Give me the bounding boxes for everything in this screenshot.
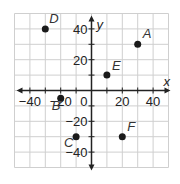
x-tick-label: 40 [146,94,160,109]
point-f-dot-icon [119,133,126,140]
x-tick-label: −40 [19,94,41,109]
point-e-label: E [112,58,121,73]
y-tick-label: 20 [73,53,87,68]
x-tick-label: 20 [115,94,129,109]
origin-label: 0 [80,94,87,109]
point-a-dot-icon [134,41,141,48]
point-c-label: C [64,135,74,150]
point-d-label: D [49,11,58,26]
point-f-label: F [127,119,136,134]
point-c-dot-icon [73,133,80,140]
y-tick-label: 40 [73,22,87,37]
data-points: ABCDEF [42,11,152,150]
x-axis-label: x [163,74,171,89]
coordinate-plane: xy −40−2020404020−20−400 ABCDEF [0,0,180,184]
y-axis-up-arrow-icon [89,16,95,22]
point-d-dot-icon [42,25,49,32]
point-b-label: B [52,98,61,113]
y-tick-label: −20 [65,114,87,129]
point-e-dot-icon [103,72,110,79]
point-a-label: A [142,26,152,41]
